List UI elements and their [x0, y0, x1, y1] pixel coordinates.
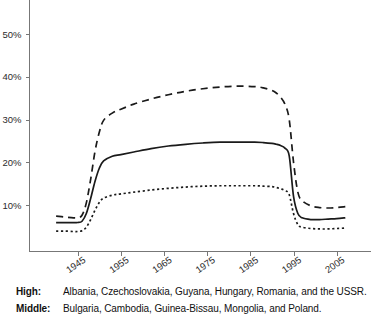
- x-tick-label: 1965: [150, 254, 174, 275]
- chart-page: 10%20%30%40%50% 194519551965197519851995…: [0, 0, 379, 323]
- x-tick-label: 1955: [107, 254, 131, 275]
- chart-series-group: [56, 86, 345, 231]
- x-tick-label: 2005: [323, 254, 347, 275]
- legend-row-high: High: Albania, Czechoslovakia, Guyana, H…: [0, 286, 379, 303]
- x-axis-ticks: 1945195519651975198519952005: [64, 252, 347, 276]
- chart-legend: High: Albania, Czechoslovakia, Guyana, H…: [0, 286, 379, 323]
- y-axis-ticks: 10%20%30%40%50%: [2, 29, 29, 211]
- series-line-low: [56, 186, 345, 232]
- series-line-middle: [56, 142, 345, 223]
- x-tick-label: 1995: [280, 254, 304, 275]
- y-tick-label: 50%: [2, 29, 22, 40]
- line-chart-svg: 10%20%30%40%50% 194519551965197519851995…: [0, 0, 379, 285]
- y-tick-label: 10%: [2, 200, 22, 211]
- chart-plot-area: 10%20%30%40%50% 194519551965197519851995…: [0, 0, 379, 285]
- legend-text-middle: Bulgaria, Cambodia, Guinea-Bissau, Mongo…: [63, 303, 321, 314]
- legend-key-high: High:: [16, 286, 63, 297]
- axes: [30, 0, 372, 252]
- x-tick-label: 1945: [64, 254, 88, 275]
- y-tick-label: 30%: [2, 114, 22, 125]
- legend-key-middle: Middle:: [16, 303, 63, 314]
- y-tick-label: 40%: [2, 71, 22, 82]
- series-line-high: [56, 86, 345, 218]
- x-tick-label: 1985: [237, 254, 261, 275]
- x-tick-label: 1975: [193, 254, 217, 275]
- legend-text-high: Albania, Czechoslovakia, Guyana, Hungary…: [63, 286, 367, 297]
- y-tick-label: 20%: [2, 157, 22, 168]
- legend-row-middle: Middle: Bulgaria, Cambodia, Guinea-Bissa…: [0, 303, 379, 320]
